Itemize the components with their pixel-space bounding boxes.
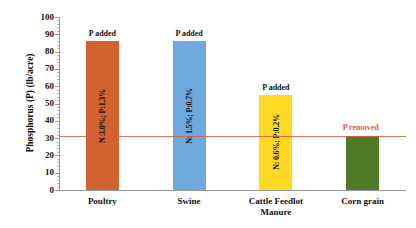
- y-tick-minor: [57, 176, 59, 177]
- y-tick-minor: [57, 27, 59, 28]
- x-tick-label-line: Swine: [146, 196, 233, 207]
- y-tick-minor: [57, 38, 59, 39]
- bar-nutrient-label: N:3.0%; P:1.3%: [98, 89, 107, 143]
- threshold-label-p-removed: P removed: [343, 123, 379, 132]
- y-tick-major: [55, 86, 59, 87]
- y-tick-minor: [57, 93, 59, 94]
- x-axis-category-labels: PoultrySwineCattle FeedlotManureCorn gra…: [59, 193, 406, 228]
- y-tick-major: [55, 17, 59, 18]
- bar-annotation-p-added: P added: [175, 29, 202, 38]
- x-tick-label-line: Manure: [233, 207, 320, 218]
- y-tick-minor: [57, 83, 59, 84]
- y-tick-minor: [57, 107, 59, 108]
- y-tick-minor: [57, 169, 59, 170]
- bar-nutrient-label: N: 0.6%; P:0.2%: [271, 115, 280, 171]
- y-tick-label: 40: [14, 116, 54, 125]
- y-tick-minor: [57, 124, 59, 125]
- y-tick-major: [55, 69, 59, 70]
- y-tick-minor: [57, 166, 59, 167]
- y-tick-major: [55, 121, 59, 122]
- y-tick-minor: [57, 72, 59, 73]
- y-tick-minor: [57, 159, 59, 160]
- x-tick-label: Poultry: [59, 196, 146, 207]
- y-tick-major: [55, 52, 59, 53]
- x-tick-label: Cattle FeedlotManure: [233, 196, 320, 218]
- bar-swine[interactable]: N: 1.5%; P:0.7%: [173, 41, 206, 190]
- plot-area: N:3.0%; P:1.3%P addedN: 1.5%; P:0.7%P ad…: [59, 17, 406, 190]
- phosphorus-bar-chart: Phosphorus (P) (lb/acre) 010203040506070…: [0, 0, 416, 228]
- y-tick-minor: [57, 152, 59, 153]
- y-tick-major: [55, 190, 59, 191]
- bar-cattle-feedlot-manure[interactable]: N: 0.6%; P:0.2%: [259, 95, 292, 190]
- y-tick-major: [55, 138, 59, 139]
- y-tick-minor: [57, 41, 59, 42]
- y-tick-major: [55, 104, 59, 105]
- y-tick-major: [55, 34, 59, 35]
- y-tick-minor: [57, 187, 59, 188]
- y-tick-label: 90: [14, 30, 54, 39]
- x-tick-label-line: Cattle Feedlot: [233, 196, 320, 207]
- y-tick-minor: [57, 131, 59, 132]
- y-tick-label: 80: [14, 47, 54, 56]
- bar-poultry[interactable]: N:3.0%; P:1.3%: [86, 41, 119, 190]
- y-tick-minor: [57, 20, 59, 21]
- y-tick-major: [55, 155, 59, 156]
- y-tick-minor: [57, 183, 59, 184]
- y-tick-label: 50: [14, 99, 54, 108]
- y-tick-minor: [57, 117, 59, 118]
- y-axis-line: [59, 17, 60, 190]
- y-tick-label: 70: [14, 64, 54, 73]
- y-tick-minor: [57, 145, 59, 146]
- y-tick-major: [55, 173, 59, 174]
- threshold-line: [59, 136, 406, 137]
- y-tick-minor: [57, 148, 59, 149]
- y-tick-minor: [57, 90, 59, 91]
- y-axis-tick-labels: 0102030405060708090100: [14, 0, 54, 228]
- y-tick-minor: [57, 110, 59, 111]
- x-tick-label-line: Poultry: [59, 196, 146, 207]
- x-tick-label-line: Corn grain: [319, 196, 406, 207]
- y-tick-minor: [57, 142, 59, 143]
- bar-corn-grain[interactable]: [346, 136, 379, 190]
- bar-annotation-p-added: P added: [262, 83, 289, 92]
- y-tick-minor: [57, 31, 59, 32]
- y-tick-minor: [57, 162, 59, 163]
- y-tick-minor: [57, 100, 59, 101]
- y-tick-minor: [57, 76, 59, 77]
- y-tick-label: 60: [14, 82, 54, 91]
- y-tick-minor: [57, 97, 59, 98]
- y-tick-label: 10: [14, 168, 54, 177]
- y-tick-label: 30: [14, 134, 54, 143]
- bar-annotation-p-added: P added: [89, 29, 116, 38]
- y-tick-minor: [57, 65, 59, 66]
- bar-fill: [346, 136, 379, 190]
- bar-nutrient-label: N: 1.5%; P:0.7%: [185, 88, 194, 144]
- y-tick-minor: [57, 79, 59, 80]
- y-tick-minor: [57, 62, 59, 63]
- y-tick-minor: [57, 45, 59, 46]
- y-tick-minor: [57, 55, 59, 56]
- y-tick-minor: [57, 48, 59, 49]
- y-tick-minor: [57, 114, 59, 115]
- y-tick-label: 0: [14, 186, 54, 195]
- y-tick-minor: [57, 180, 59, 181]
- y-tick-minor: [57, 24, 59, 25]
- x-axis-line: [59, 190, 406, 191]
- y-tick-label: 100: [14, 13, 54, 22]
- y-tick-label: 20: [14, 151, 54, 160]
- x-tick-label: Corn grain: [319, 196, 406, 207]
- y-tick-minor: [57, 128, 59, 129]
- x-tick-label: Swine: [146, 196, 233, 207]
- y-tick-minor: [57, 59, 59, 60]
